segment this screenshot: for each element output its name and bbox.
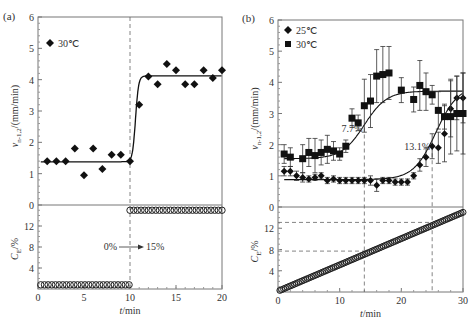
y-tick-label: 2 — [29, 137, 34, 148]
legend-label: 30℃ — [296, 39, 317, 50]
diamond-marker — [172, 66, 180, 74]
diamond-marker — [80, 171, 88, 179]
square-marker — [453, 110, 460, 117]
legend: 25℃30℃ — [284, 25, 317, 50]
x-tick-label: 20 — [217, 292, 227, 303]
x-axis: 0102030t/min — [276, 288, 469, 319]
diamond-marker — [43, 157, 51, 165]
x-axis-label: t/min — [119, 305, 140, 316]
diamond-marker — [398, 179, 405, 186]
diamond-marker — [373, 182, 380, 189]
x-tick-label: 10 — [335, 295, 345, 306]
diamond-marker — [441, 130, 448, 137]
y-tick-label: 4 — [29, 75, 34, 86]
y-tick-label: 12 — [264, 223, 274, 234]
diamond-marker — [218, 66, 226, 74]
diamond-marker — [435, 144, 442, 151]
square-marker — [285, 41, 291, 47]
annotation-to: 15% — [146, 241, 164, 252]
y-tick-label: 0 — [29, 200, 34, 211]
diamond-marker — [117, 151, 125, 159]
diamond-marker — [392, 179, 399, 186]
y-tick-label: 1 — [29, 169, 34, 180]
diamond-marker — [98, 165, 106, 173]
diamond-marker — [163, 60, 171, 68]
y-axis-bottom: 4812 — [264, 212, 282, 286]
y-axis-bottom: 4812 — [24, 210, 42, 284]
panel-label-b: (b) — [242, 12, 255, 25]
arrow-head-icon — [138, 245, 144, 250]
square-marker — [305, 149, 312, 156]
diamond-marker — [423, 154, 430, 161]
square-marker — [435, 107, 442, 114]
diamond-marker — [46, 39, 54, 47]
diamond-marker — [404, 179, 411, 186]
square-marker — [429, 91, 436, 98]
square-marker — [410, 96, 417, 103]
x-tick-label: 10 — [125, 292, 135, 303]
square-marker — [367, 98, 374, 105]
square-marker — [349, 115, 356, 122]
diamond-marker — [287, 168, 294, 175]
y-tick-label: 5 — [269, 46, 274, 57]
diamond-marker — [410, 172, 417, 179]
diamond-marker — [71, 145, 79, 153]
x-tick-label: 20 — [396, 295, 406, 306]
fit-curves — [41, 76, 222, 162]
diamond-marker — [108, 151, 116, 159]
x-axis: 05101520t/min — [36, 285, 228, 316]
square-marker — [299, 155, 306, 162]
square-marker — [330, 147, 337, 154]
square-marker — [324, 146, 331, 153]
y-tick-label: 1 — [269, 171, 274, 182]
annotation-from: 0% — [104, 241, 117, 252]
diamond-marker — [144, 73, 152, 81]
annotation-label: 7.7% — [341, 123, 362, 134]
y-axis-label-bottom: CE/% — [249, 240, 263, 262]
square-marker — [287, 154, 294, 161]
diamond-marker — [305, 175, 312, 182]
y-axis-label-bottom: CE/% — [9, 238, 23, 260]
panel-a: (a) 0123456481205101520t/minvn-1,2/(mm/m… — [3, 10, 227, 316]
diamond-marker — [281, 168, 288, 175]
square-marker — [386, 69, 393, 76]
diamond-marker — [318, 172, 325, 179]
y-tick-label: 3 — [29, 106, 34, 117]
y-tick-label: 6 — [269, 15, 274, 26]
diamond-marker — [367, 177, 374, 184]
square-marker — [336, 151, 343, 158]
square-marker — [441, 113, 448, 120]
y-axis-top: 0123456 — [29, 12, 42, 211]
diamond-marker — [293, 172, 300, 179]
legend: 30℃ — [46, 38, 79, 49]
diamond-marker — [200, 66, 208, 74]
diamond-marker — [126, 157, 134, 165]
diamond-marker — [336, 177, 343, 184]
y-axis-top: 0123456 — [269, 15, 282, 213]
square-marker — [398, 87, 405, 94]
diamond-marker — [361, 177, 368, 184]
y-tick-label: 3 — [269, 109, 274, 120]
x-axis-label: t/min — [360, 308, 381, 319]
square-marker — [281, 151, 288, 158]
diamond-marker — [284, 26, 292, 34]
annotation-label: 13.1% — [404, 141, 430, 152]
x-tick-label: 30 — [458, 295, 468, 306]
x-tick-label: 0 — [36, 292, 41, 303]
panel-b: (b) 012345648120102030t/minvn-1,2/(mm/mi… — [242, 12, 468, 319]
y-tick-label: 0 — [269, 202, 274, 213]
square-marker — [460, 110, 467, 117]
x-tick-label: 0 — [276, 295, 281, 306]
panel-label-a: (a) — [3, 10, 16, 23]
diamond-marker — [190, 80, 198, 88]
square-marker — [361, 102, 368, 109]
diamond-marker — [154, 80, 162, 88]
legend-label: 30℃ — [58, 38, 79, 49]
y-tick-label: 12 — [24, 221, 34, 232]
diamond-marker — [324, 177, 331, 184]
y-tick-label: 2 — [269, 140, 274, 151]
y-tick-label: 8 — [269, 245, 274, 256]
y-axis-label-top: vn-1,2/(mm/min) — [249, 87, 263, 149]
diamond-marker — [416, 161, 423, 168]
chart-canvas: (a) 0123456481205101520t/minvn-1,2/(mm/m… — [0, 0, 475, 322]
